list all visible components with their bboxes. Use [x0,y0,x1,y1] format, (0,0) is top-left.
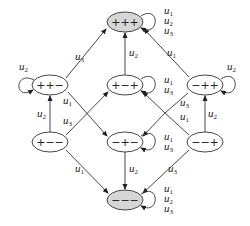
label-u3-ppm-ppp: u3 [75,50,85,64]
node-label-ppm: ++− [36,79,64,92]
node-label-mpp: −++ [191,79,219,92]
label-u2-pmm-ppm: u2 [37,107,47,121]
node-label-ppp: +++ [111,16,139,29]
state-diagram: +++ ++− +−+ −++ +−− −+− −−+ −−− u3 u1 u2… [0,0,250,226]
edge-pmm-mmm [66,150,108,193]
label-u2-mmp-mpp: u2 [208,107,218,121]
edge-ppm-ppp [66,29,106,78]
node-label-mmm: −−− [111,194,139,207]
edge-mmp-mpm-b [143,113,165,136]
loop-label-ppm-u2: u2 [19,60,29,74]
label-u2-pmp-ppp: u2 [129,46,139,60]
node-label-mpm: −+− [111,136,139,149]
label-u3-mmp-mmm: u3 [168,162,178,176]
label-u3-pmm-pmp: u3 [63,114,73,128]
label-u1-pmm-mmm: u1 [75,162,85,176]
edge-mpp-pmp-b [143,92,165,113]
label-u1-mmp-mpm: u1 [180,110,190,124]
edge-pmm-pmp [66,92,108,135]
label-u3-mpp-pmp: u3 [180,96,190,110]
label-u1-mpp-ppp: u1 [167,46,177,60]
label-u2-mpm-mmm: u2 [129,162,139,176]
loop-label-mpp-u2: u2 [227,60,237,74]
node-label-pmp: +−+ [111,79,139,92]
node-label-mmp: −−+ [191,136,219,149]
node-label-pmm: +−− [36,136,64,149]
